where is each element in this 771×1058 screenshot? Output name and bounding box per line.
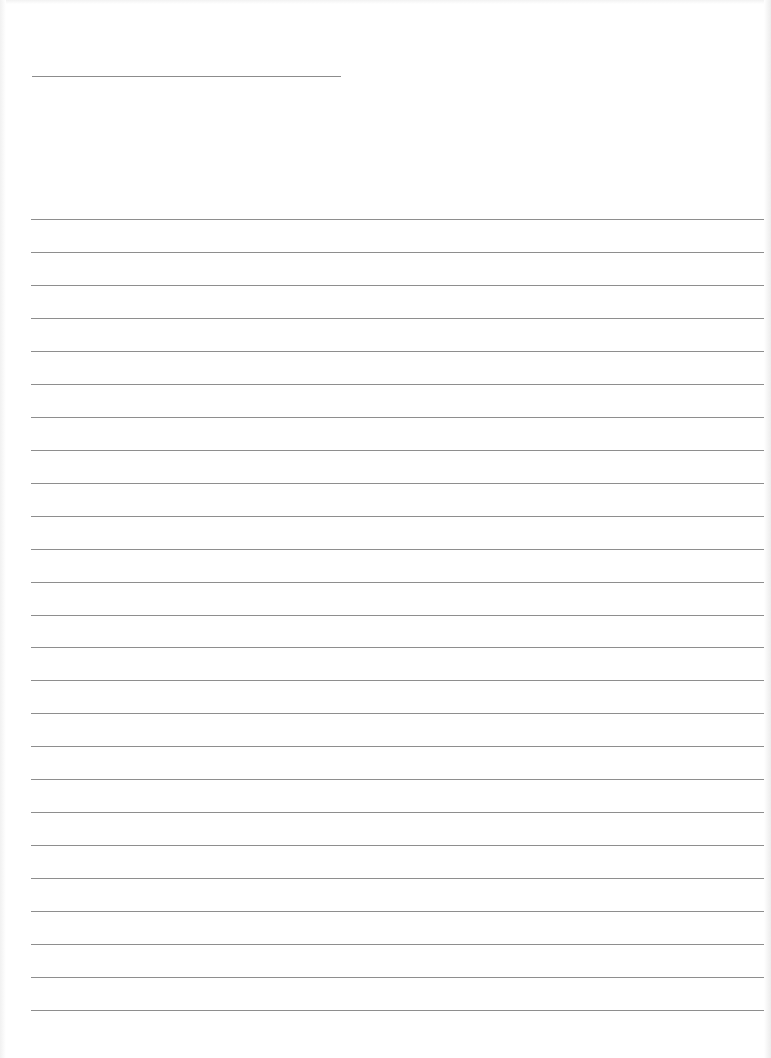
ruled-line: [31, 252, 764, 253]
ruled-line: [31, 384, 764, 385]
ruled-line: [31, 845, 764, 846]
ruled-line: [31, 615, 764, 616]
ruled-line: [31, 878, 764, 879]
ruled-paper-page: [0, 0, 771, 1058]
ruled-lines-container: [0, 0, 771, 1058]
ruled-line: [31, 713, 764, 714]
ruled-line: [31, 944, 764, 945]
ruled-line: [31, 351, 764, 352]
ruled-line: [31, 812, 764, 813]
ruled-line: [31, 582, 764, 583]
ruled-line: [31, 417, 764, 418]
ruled-line: [31, 549, 764, 550]
ruled-line: [31, 483, 764, 484]
ruled-line: [31, 318, 764, 319]
ruled-line: [31, 680, 764, 681]
ruled-line: [31, 911, 764, 912]
ruled-line: [31, 779, 764, 780]
ruled-line: [31, 219, 764, 220]
ruled-line: [31, 450, 764, 451]
ruled-line: [31, 285, 764, 286]
ruled-line: [31, 516, 764, 517]
ruled-line: [31, 977, 764, 978]
ruled-line: [31, 1010, 764, 1011]
ruled-line: [31, 746, 764, 747]
ruled-line: [31, 647, 764, 648]
